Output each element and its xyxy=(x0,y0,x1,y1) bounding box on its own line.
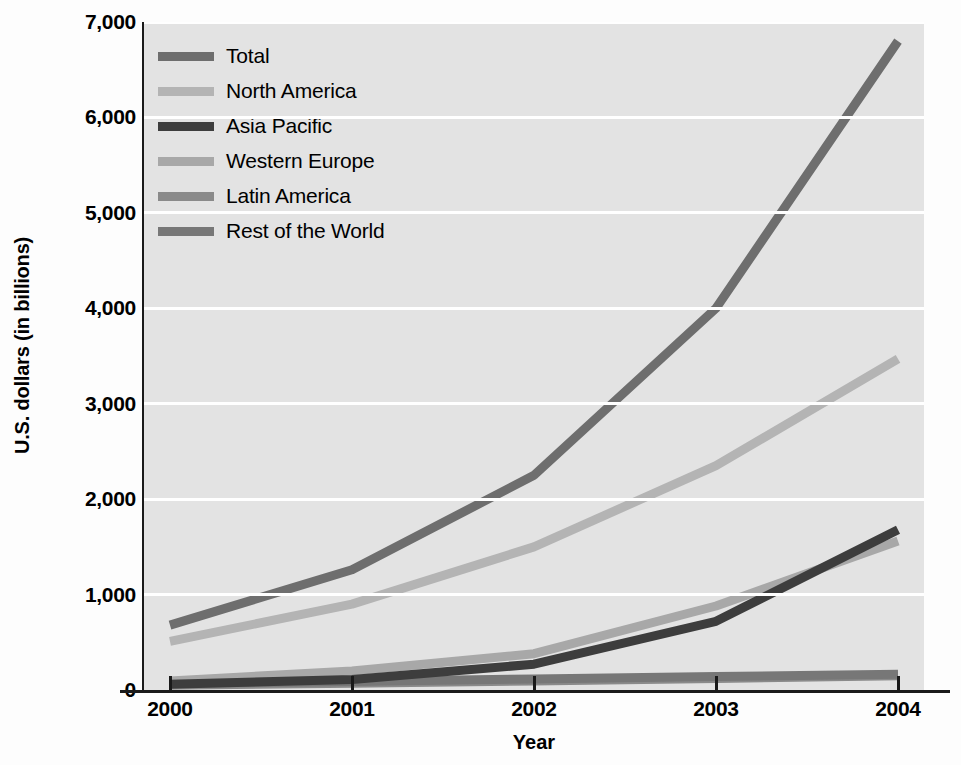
gridline xyxy=(144,593,924,596)
legend-swatch-icon xyxy=(158,52,214,61)
plot-area: TotalNorth AmericaAsia PacificWestern Eu… xyxy=(144,22,924,690)
legend-item: Rest of the World xyxy=(158,217,384,245)
legend: TotalNorth AmericaAsia PacificWestern Eu… xyxy=(158,42,384,245)
line-chart-figure: U.S. dollars (in billions) 01,0002,0003,… xyxy=(0,0,961,765)
legend-swatch-icon xyxy=(158,157,214,166)
gridline xyxy=(144,22,924,24)
x-axis-tick-label: 2002 xyxy=(511,697,557,721)
x-axis-tick-label: 2004 xyxy=(875,697,921,721)
x-axis-title: Year xyxy=(144,731,924,754)
y-axis-tick-label: 7,000 xyxy=(85,10,136,34)
legend-item: Total xyxy=(158,42,384,70)
legend-swatch-icon xyxy=(158,227,214,236)
series-line xyxy=(170,530,898,685)
x-axis-tick-mark xyxy=(715,676,718,692)
legend-item: Western Europe xyxy=(158,147,384,175)
y-axis-tick-label: 5,000 xyxy=(85,201,136,225)
x-axis-tick-label: 2001 xyxy=(329,697,375,721)
legend-swatch-icon xyxy=(158,87,214,96)
legend-label: North America xyxy=(226,79,356,103)
x-axis-tick-label: 2003 xyxy=(693,697,739,721)
legend-label: Western Europe xyxy=(226,149,375,173)
gridline xyxy=(144,498,924,501)
y-axis-tick-label: 2,000 xyxy=(85,487,136,511)
gridline xyxy=(144,307,924,310)
x-axis-tick-label: 2000 xyxy=(147,697,193,721)
legend-swatch-icon xyxy=(158,192,214,201)
legend-label: Total xyxy=(226,44,269,68)
gridline xyxy=(144,402,924,405)
y-axis-title: U.S. dollars (in billions) xyxy=(12,236,35,453)
x-axis-tick-mark xyxy=(351,676,354,692)
x-axis-tick-mark xyxy=(169,676,172,692)
legend-item: North America xyxy=(158,77,384,105)
y-axis-tick-label: 1,000 xyxy=(85,583,136,607)
legend-label: Rest of the World xyxy=(226,219,384,243)
legend-label: Latin America xyxy=(226,184,351,208)
x-axis-tick-mark xyxy=(533,676,536,692)
y-axis-tick-label: 3,000 xyxy=(85,392,136,416)
x-axis-tick-mark xyxy=(897,676,900,692)
legend-swatch-icon xyxy=(158,122,214,131)
y-axis-tick-label: 4,000 xyxy=(85,296,136,320)
gridline xyxy=(144,211,924,214)
y-axis-tick-labels: 01,0002,0003,0004,0005,0006,0007,000 xyxy=(40,0,144,690)
gridline xyxy=(144,116,924,119)
y-axis-tick-label: 6,000 xyxy=(85,105,136,129)
legend-item: Latin America xyxy=(158,182,384,210)
